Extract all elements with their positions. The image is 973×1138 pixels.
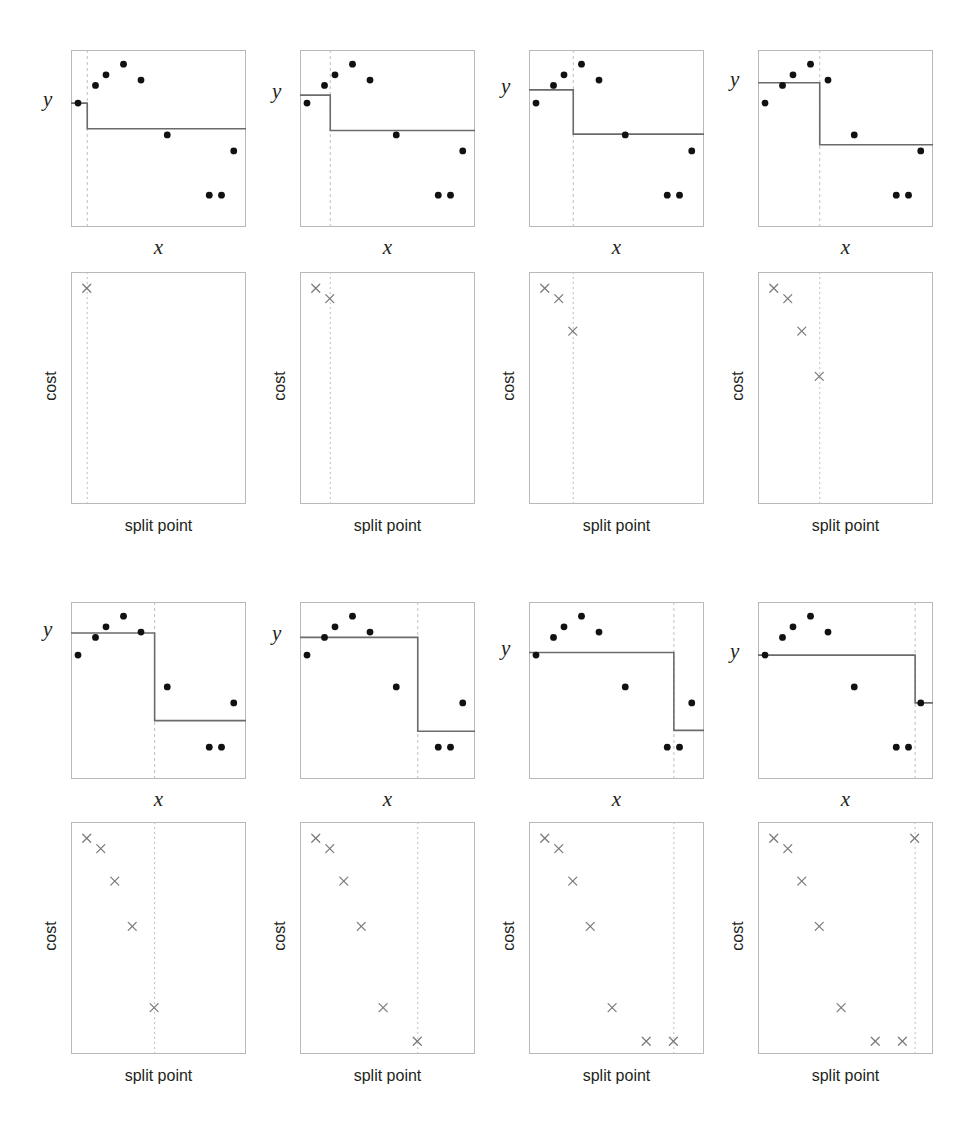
x-axis-label-7: x [529,789,704,810]
data-point [790,71,797,78]
data-point [304,100,311,107]
data-point [917,147,924,154]
data-point [349,613,356,620]
plot-frame [72,603,246,779]
scatter-panel-6 [300,602,475,779]
scatter-panel-7 [529,602,704,779]
data-point [807,613,814,620]
cost-axis-label-2: cost [272,346,288,426]
split-point-axis-label-4: split point [758,518,933,534]
scatter-panel-5 [71,602,246,779]
plot-frame [759,51,933,227]
plot-frame [301,273,475,504]
data-point [893,744,900,751]
split-point-axis-label-8: split point [758,1068,933,1084]
split-point-axis-label-2: split point [300,518,475,534]
data-point [676,192,683,199]
data-point [393,132,400,139]
data-point [893,192,900,199]
data-point [622,132,629,139]
plot-frame [72,51,246,227]
data-point [304,652,311,659]
scatter-plot-1 [71,50,246,227]
scatter-panel-8 [758,602,933,779]
cost-axis-label-6: cost [272,896,288,976]
data-point [459,699,466,706]
scatter-plot-4 [758,50,933,227]
data-point [447,744,454,751]
data-point [550,634,557,641]
x-axis-label-6: x [300,789,475,810]
data-point [393,684,400,691]
y-axis-label-1: y [43,89,52,110]
cost-plot-7 [529,822,704,1054]
data-point [164,684,171,691]
data-point [230,147,237,154]
data-point [917,699,924,706]
data-point [435,744,442,751]
x-axis-label-5: x [71,789,246,810]
scatter-plot-8 [758,602,933,779]
x-axis-label-4: x [758,237,933,258]
split-point-axis-label-7: split point [529,1068,704,1084]
data-point [75,652,82,659]
data-point [138,629,145,636]
data-point [103,623,110,630]
data-point [206,744,213,751]
plot-frame [301,51,475,227]
data-point [218,744,225,751]
data-point [533,652,540,659]
cost-panel-3 [529,272,704,504]
data-point [138,77,145,84]
scatter-plot-6 [300,602,475,779]
data-point [790,623,797,630]
data-point [75,100,82,107]
data-point [622,684,629,691]
cost-plot-1 [71,272,246,504]
data-point [578,613,585,620]
data-point [664,744,671,751]
split-point-axis-label-5: split point [71,1068,246,1084]
cost-axis-label-8: cost [730,896,746,976]
cost-plot-5 [71,822,246,1054]
scatter-plot-3 [529,50,704,227]
data-point [905,744,912,751]
cost-panel-2 [300,272,475,504]
data-point [103,71,110,78]
data-point [447,192,454,199]
data-point [349,61,356,68]
scatter-plot-7 [529,602,704,779]
split-point-axis-label-3: split point [529,518,704,534]
data-point [779,634,786,641]
cost-panel-7 [529,822,704,1054]
cost-axis-label-4: cost [730,346,746,426]
cost-plot-2 [300,272,475,504]
data-point [459,147,466,154]
scatter-plot-5 [71,602,246,779]
data-point [851,132,858,139]
data-point [688,699,695,706]
cost-plot-6 [300,822,475,1054]
scatter-panel-4 [758,50,933,227]
data-point [664,192,671,199]
y-axis-label-4: y [730,69,739,90]
plot-frame [301,823,475,1054]
cost-panel-1 [71,272,246,504]
data-point [807,61,814,68]
x-axis-label-3: x [529,237,704,258]
data-point [676,744,683,751]
data-point [578,61,585,68]
x-axis-label-8: x [758,789,933,810]
data-point [164,132,171,139]
data-point [435,192,442,199]
data-point [825,77,832,84]
data-point [762,652,769,659]
y-axis-label-3: y [501,76,510,97]
plot-frame [759,603,933,779]
plot-frame [530,603,704,779]
plot-frame [530,823,704,1054]
cost-axis-label-1: cost [43,346,59,426]
cost-axis-label-5: cost [43,896,59,976]
plot-frame [759,273,933,504]
data-point [550,82,557,89]
